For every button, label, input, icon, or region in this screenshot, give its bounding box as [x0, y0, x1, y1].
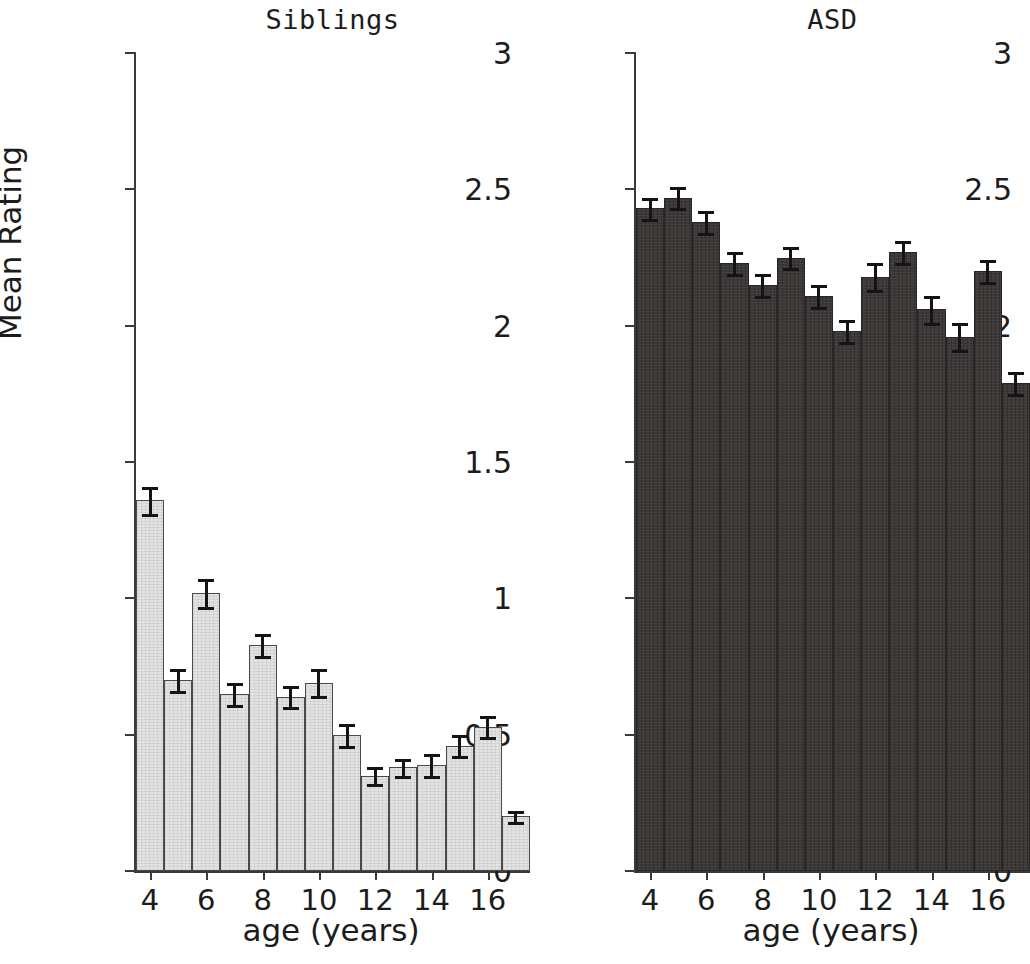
error-bar-cap: [980, 260, 996, 263]
x-tick-mark: [763, 871, 765, 880]
error-bar-cap: [755, 296, 771, 299]
bar: [192, 593, 220, 871]
plot-area-siblings: 00.511.522.5346810121416: [134, 53, 530, 873]
bar: [889, 252, 917, 871]
x-tick-mark: [988, 871, 990, 880]
x-axis-title-siblings: age (years): [134, 912, 528, 948]
y-tick-mark: [125, 188, 136, 190]
error-bar-cap: [395, 759, 411, 762]
error-bar: [930, 296, 933, 323]
bar: [720, 263, 748, 871]
panel-title-siblings: Siblings: [135, 4, 530, 35]
bar: [305, 683, 333, 871]
error-bar: [705, 211, 708, 233]
error-bar-cap: [924, 296, 940, 299]
error-bar: [317, 669, 320, 696]
error-bar-cap: [198, 579, 214, 582]
bar: [136, 500, 164, 871]
bar: [861, 277, 889, 871]
error-bar-cap: [642, 219, 658, 222]
bar: [777, 258, 805, 872]
error-bar-cap: [283, 707, 299, 710]
panel-title-asd: ASD: [635, 4, 1030, 35]
error-bar-cap: [227, 683, 243, 686]
y-tick-mark: [125, 461, 136, 463]
bar: [474, 727, 502, 872]
error-bar-cap: [311, 696, 327, 699]
error-bar-cap: [895, 241, 911, 244]
y-tick-mark: [125, 325, 136, 327]
bar: [220, 694, 248, 871]
bar: [636, 208, 664, 871]
error-bar-cap: [980, 282, 996, 285]
bar: [249, 645, 277, 871]
bar: [164, 680, 192, 871]
error-bar-cap: [952, 323, 968, 326]
x-tick-mark: [488, 871, 490, 880]
error-bar-cap: [198, 607, 214, 610]
y-tick-mark: [625, 325, 636, 327]
error-bar: [958, 323, 961, 350]
error-bar: [289, 686, 292, 708]
error-bar-cap: [452, 735, 468, 738]
y-tick-mark: [625, 52, 636, 54]
error-bar-cap: [170, 691, 186, 694]
error-bar-cap: [311, 669, 327, 672]
error-bar-cap: [670, 187, 686, 190]
x-tick-mark: [650, 871, 652, 880]
error-bar-cap: [839, 320, 855, 323]
x-tick-mark: [819, 871, 821, 880]
error-bar-cap: [142, 514, 158, 517]
bar: [805, 296, 833, 871]
y-tick-label: 3: [993, 36, 1012, 71]
bar: [277, 697, 305, 872]
x-tick-mark: [319, 871, 321, 880]
error-bar: [205, 579, 208, 606]
error-bar: [149, 487, 152, 514]
error-bar-cap: [227, 705, 243, 708]
error-bar-cap: [924, 323, 940, 326]
bar: [446, 746, 474, 871]
error-bar-cap: [867, 290, 883, 293]
x-tick-mark: [875, 871, 877, 880]
error-bar-cap: [727, 274, 743, 277]
error-bar-cap: [895, 263, 911, 266]
error-bar: [261, 634, 264, 656]
error-bar: [817, 285, 820, 307]
bar: [917, 309, 945, 871]
error-bar-cap: [839, 342, 855, 345]
error-bar-cap: [867, 263, 883, 266]
bar: [692, 222, 720, 871]
error-bar-cap: [480, 716, 496, 719]
error-bar-cap: [424, 776, 440, 779]
error-bar-cap: [339, 746, 355, 749]
error-bar-cap: [142, 487, 158, 490]
error-bar-cap: [1008, 372, 1024, 375]
y-tick-mark: [125, 597, 136, 599]
error-bar-cap: [783, 268, 799, 271]
error-bar-cap: [952, 350, 968, 353]
bar: [1002, 383, 1030, 871]
error-bar-cap: [670, 208, 686, 211]
panel-asd: ASD 00.511.522.5346810121416 age (years): [500, 0, 1027, 964]
error-bar-cap: [367, 767, 383, 770]
y-tick-mark: [125, 52, 136, 54]
error-bar-cap: [698, 233, 714, 236]
plot-area-asd: 00.511.522.5346810121416: [634, 53, 1030, 873]
bar: [417, 765, 445, 871]
y-tick-mark: [625, 461, 636, 463]
bar: [749, 285, 777, 871]
error-bar-cap: [255, 656, 271, 659]
error-bar: [789, 247, 792, 269]
y-tick-mark: [625, 188, 636, 190]
error-bar-cap: [642, 198, 658, 201]
y-tick-label: 2.5: [964, 172, 1012, 207]
bar: [361, 776, 389, 871]
bar: [389, 767, 417, 871]
bar: [664, 198, 692, 871]
error-bar: [761, 274, 764, 296]
x-tick-mark: [375, 871, 377, 880]
error-bar: [649, 198, 652, 220]
error-bar-cap: [255, 634, 271, 637]
